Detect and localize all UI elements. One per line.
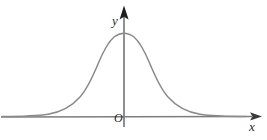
x-axis-line: [1, 117, 252, 118]
coordinate-plane-svg: [0, 0, 267, 140]
figure-canvas: y x O: [0, 0, 267, 140]
y-axis-label: y: [112, 14, 118, 27]
x-axis-label: x: [249, 120, 255, 133]
origin-label: O: [114, 112, 123, 124]
